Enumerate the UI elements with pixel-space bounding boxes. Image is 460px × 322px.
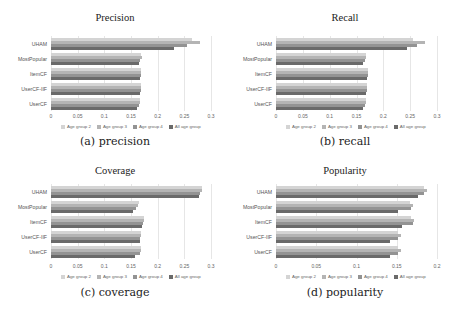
category-label: MostPopular (243, 52, 272, 66)
x-tick-label: 0.15 (126, 263, 136, 269)
category-label: UHAM (257, 185, 272, 199)
category-row: UserCF-IIF (276, 82, 437, 96)
legend-swatch-icon (286, 275, 290, 279)
chart-title: Coverage (0, 165, 230, 176)
category-label: UserCF-IIF (246, 82, 272, 96)
x-tick-label: 0 (275, 263, 278, 269)
coverage-chart: CoverageUHAMMostPopularItemCFUserCF-IIFU… (0, 160, 230, 321)
legend: Age group 2Age group 3Age group 4All age… (61, 124, 201, 129)
x-tick-label: 0.2 (154, 263, 161, 269)
legend-item: Age group 3 (322, 274, 352, 279)
legend-item: Age group 2 (61, 274, 91, 279)
x-tick-label: 0.1 (101, 263, 108, 269)
x-tick-label: 0 (275, 113, 278, 119)
bar (51, 62, 139, 65)
bar (51, 195, 199, 198)
legend-item: Age group 2 (286, 274, 316, 279)
x-tick-label: 0 (50, 113, 53, 119)
legend-swatch-icon (133, 125, 137, 129)
legend-item: All age group (394, 124, 426, 129)
plot-area: UHAMMostPopularItemCFUserCF-IIFUserCF (51, 36, 211, 111)
legend-item: Age group 3 (322, 124, 352, 129)
category-row: UserCF-IIF (51, 230, 211, 244)
x-tick-label: 0.15 (352, 113, 362, 119)
category-row: UHAM (51, 185, 211, 199)
x-tick-label: 0.1 (326, 113, 333, 119)
x-tick-label: 0.3 (208, 263, 215, 269)
category-label: UHAM (32, 37, 47, 51)
bar (51, 107, 137, 110)
legend: Age group 2Age group 3Age group 4All age… (61, 274, 201, 279)
category-label: ItemCF (30, 67, 47, 81)
legend-label: All age group (175, 274, 201, 279)
bar (276, 92, 366, 95)
legend-swatch-icon (61, 275, 65, 279)
category-row: MostPopular (51, 52, 211, 66)
category-row: ItemCF (51, 67, 211, 81)
legend-swatch-icon (133, 275, 137, 279)
legend-swatch-icon (322, 125, 326, 129)
bar (51, 47, 174, 50)
x-tick-label: 0.3 (208, 113, 215, 119)
legend-label: Age group 4 (139, 274, 163, 279)
bar (51, 255, 135, 258)
bar (276, 210, 398, 213)
category-row: UserCF (276, 97, 437, 111)
legend-item: Age group 4 (358, 124, 388, 129)
x-tick-label: 0.15 (126, 113, 136, 119)
x-tick-label: 0.05 (311, 263, 321, 269)
category-row: UHAM (51, 37, 211, 51)
category-row: UserCF-IIF (51, 82, 211, 96)
x-tick-label: 0.3 (434, 113, 441, 119)
chart-title: Popularity (230, 165, 460, 176)
category-row: UHAM (276, 37, 437, 51)
legend-item: Age group 4 (358, 274, 388, 279)
plot-area: UHAMMostPopularItemCFUserCF-IIFUserCF (276, 184, 437, 259)
legend-item: Age group 2 (286, 124, 316, 129)
x-tick-label: 0.25 (405, 113, 415, 119)
x-tick-label: 0.2 (380, 113, 387, 119)
chart-title: Precision (0, 12, 230, 23)
legend-label: Age group 4 (364, 274, 388, 279)
legend-label: All age group (400, 124, 426, 129)
x-tick-label: 0.2 (434, 263, 441, 269)
category-label: MostPopular (243, 200, 272, 214)
figure-caption: (a) precision (0, 135, 230, 148)
x-tick-label: 0.1 (101, 113, 108, 119)
bar (276, 47, 407, 50)
plot-area: UHAMMostPopularItemCFUserCF-IIFUserCF (276, 36, 437, 111)
gridline (211, 36, 212, 111)
category-label: UserCF-IIF (21, 230, 47, 244)
legend-label: Age group 2 (67, 124, 91, 129)
bar (51, 77, 140, 80)
chart-title: Recall (230, 12, 460, 23)
legend-swatch-icon (97, 125, 101, 129)
category-row: UserCF (51, 245, 211, 259)
category-label: MostPopular (18, 52, 47, 66)
gridline (211, 184, 212, 259)
legend-label: Age group 3 (328, 274, 352, 279)
bar (51, 225, 142, 228)
legend-swatch-icon (97, 275, 101, 279)
category-row: ItemCF (276, 67, 437, 81)
category-label: UserCF (254, 245, 272, 259)
category-label: MostPopular (18, 200, 47, 214)
bar (276, 240, 390, 243)
legend-label: Age group 3 (328, 124, 352, 129)
legend: Age group 2Age group 3Age group 4All age… (286, 274, 426, 279)
category-label: ItemCF (255, 215, 272, 229)
legend-swatch-icon (358, 275, 362, 279)
x-tick-label: 0.25 (179, 263, 189, 269)
category-label: UserCF-IIF (21, 82, 47, 96)
bar (276, 77, 367, 80)
legend-label: Age group 3 (103, 124, 127, 129)
bar (51, 92, 140, 95)
x-tick-label: 0.15 (392, 263, 402, 269)
category-row: UserCF-IIF (276, 230, 437, 244)
legend-label: Age group 3 (103, 274, 127, 279)
bar (276, 225, 402, 228)
legend-swatch-icon (169, 275, 173, 279)
category-row: ItemCF (276, 215, 437, 229)
legend-item: All age group (394, 274, 426, 279)
gridline (437, 184, 438, 259)
